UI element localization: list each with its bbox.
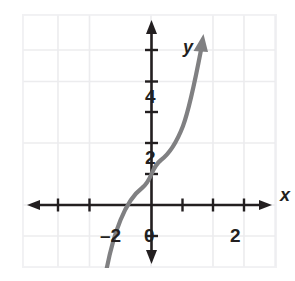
x-tick-label-neg2: –2	[100, 226, 121, 245]
curve-arrow-end	[194, 34, 209, 52]
x-tick-label-0: 0	[144, 226, 155, 245]
y-axis-label: y	[183, 38, 193, 56]
graph-figure: –2 0 2 2 4 x y	[0, 0, 295, 281]
x-axis-label: x	[280, 186, 290, 204]
y-tick-label-2: 2	[145, 148, 156, 167]
x-tick-label-2: 2	[230, 226, 241, 245]
y-tick-label-4: 4	[145, 87, 156, 106]
plot-frame: –2 0 2 2 4 x y	[22, 14, 277, 268]
x-axis	[27, 199, 272, 212]
